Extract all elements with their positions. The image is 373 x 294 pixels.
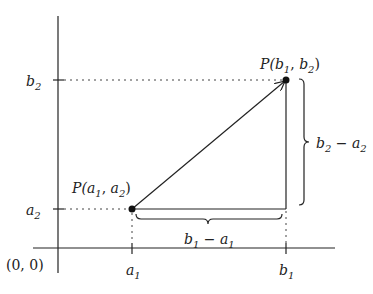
point-label-a: P(a1, a2) [71,180,131,199]
point-a [129,206,136,213]
x-tick-label-b1: b1 [279,262,294,281]
brace-label-vertical: b2 − a2 [316,135,367,154]
vertical-brace [299,79,309,205]
point-label-b: P(b1, b2) [259,56,320,75]
y-tick-label-a2: a2 [26,202,41,221]
vector-diagram: (0, 0) b2 a2 a1 b1 P(a1, a2) P(b1, b2) b… [0,0,373,294]
horizontal-brace [136,214,282,224]
point-b [283,77,290,84]
vector-arrow [132,81,285,209]
x-tick-label-a1: a1 [126,262,141,281]
brace-label-horizontal: b1 − a1 [184,231,235,250]
y-tick-label-b2: b2 [26,73,41,92]
origin-label: (0, 0) [6,257,44,273]
